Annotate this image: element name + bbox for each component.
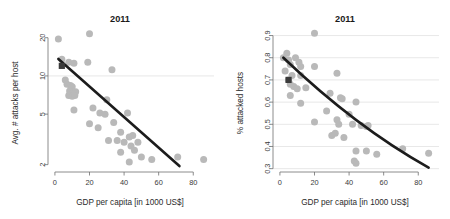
panel-attacked-hosts: 2011 % attacked hosts GDP per capita [in… bbox=[225, 0, 450, 219]
data-point bbox=[425, 150, 432, 157]
data-point bbox=[138, 153, 145, 160]
data-point bbox=[124, 110, 131, 117]
left-panel-title: 2011 bbox=[110, 14, 130, 24]
x-tick-label: 80 bbox=[414, 178, 422, 187]
x-tick-label: 20 bbox=[310, 178, 318, 187]
data-point bbox=[105, 137, 112, 144]
left-y-axis: 251020 bbox=[38, 34, 48, 167]
data-point bbox=[323, 107, 330, 114]
data-point bbox=[70, 60, 77, 67]
data-point bbox=[86, 30, 93, 37]
x-tick-label: 0 bbox=[278, 178, 282, 187]
right-data-points bbox=[280, 30, 432, 167]
data-point bbox=[71, 92, 78, 99]
data-point bbox=[311, 119, 318, 126]
right-x-axis: 020406080 bbox=[278, 172, 423, 187]
data-point bbox=[297, 63, 304, 70]
data-point bbox=[108, 66, 115, 73]
y-tick-label: 20 bbox=[38, 34, 47, 42]
data-point bbox=[55, 36, 62, 43]
data-point bbox=[89, 104, 96, 111]
data-point bbox=[126, 158, 133, 165]
data-point bbox=[333, 70, 340, 77]
y-tick-label: 0.6 bbox=[263, 97, 272, 107]
left-x-axis-title: GDP per capita [in 1000 US$] bbox=[76, 198, 184, 207]
data-point bbox=[349, 121, 356, 128]
y-tick-label: 2 bbox=[38, 163, 47, 167]
data-point bbox=[84, 59, 91, 66]
left-x-axis: 020406080 bbox=[53, 172, 198, 187]
data-point bbox=[363, 147, 370, 154]
data-point bbox=[311, 63, 318, 70]
y-tick-label: 0.4 bbox=[263, 141, 272, 151]
panel-attacks-per-host: 2011 Avg. # attacks per host GDP per cap… bbox=[0, 0, 225, 219]
x-tick-label: 60 bbox=[155, 178, 163, 187]
data-point bbox=[200, 156, 207, 163]
data-point bbox=[117, 129, 124, 136]
data-point bbox=[121, 139, 128, 146]
right-x-axis-title: GDP per capita [in 1000 US$] bbox=[301, 198, 409, 207]
data-point bbox=[86, 120, 93, 127]
x-tick-label: 20 bbox=[85, 178, 93, 187]
right-panel-title: 2011 bbox=[335, 14, 355, 24]
left-y-axis-title: Avg. # attacks per host bbox=[11, 61, 20, 145]
right-plot-svg: 2011 % attacked hosts GDP per capita [in… bbox=[225, 0, 450, 219]
right-y-axis: 0.30.40.50.60.70.80.9 bbox=[263, 30, 273, 173]
data-point bbox=[340, 134, 347, 141]
y-tick-label: 0.8 bbox=[263, 53, 272, 63]
data-point bbox=[294, 85, 301, 92]
data-point bbox=[297, 100, 304, 107]
data-point bbox=[302, 84, 309, 91]
y-tick-label: 10 bbox=[38, 72, 47, 80]
data-point bbox=[311, 30, 318, 37]
data-point bbox=[287, 92, 294, 99]
data-point bbox=[110, 119, 117, 126]
y-tick-label: 0.3 bbox=[263, 164, 272, 174]
data-point bbox=[102, 111, 109, 118]
data-point bbox=[129, 132, 136, 139]
data-point bbox=[332, 130, 339, 137]
data-point bbox=[353, 99, 360, 106]
data-point bbox=[282, 68, 289, 75]
data-point bbox=[70, 106, 77, 113]
x-tick-label: 40 bbox=[345, 178, 353, 187]
x-tick-label: 60 bbox=[380, 178, 388, 187]
left-data-points bbox=[55, 30, 207, 165]
data-point bbox=[134, 139, 141, 146]
right-highlight-marker bbox=[285, 77, 291, 83]
data-point bbox=[174, 153, 181, 160]
data-point bbox=[283, 50, 290, 57]
data-point bbox=[117, 149, 124, 156]
y-tick-label: 0.5 bbox=[263, 119, 272, 129]
y-tick-label: 0.7 bbox=[263, 75, 272, 85]
x-tick-label: 40 bbox=[120, 178, 128, 187]
data-point bbox=[353, 160, 360, 167]
data-point bbox=[114, 137, 121, 144]
data-point bbox=[373, 151, 380, 158]
data-point bbox=[335, 121, 342, 128]
data-point bbox=[148, 156, 155, 163]
data-point bbox=[353, 147, 360, 154]
y-tick-label: 5 bbox=[38, 112, 47, 116]
x-tick-label: 80 bbox=[189, 178, 197, 187]
figure-container: 2011 Avg. # attacks per host GDP per cap… bbox=[0, 0, 450, 219]
left-highlight-marker bbox=[59, 63, 65, 69]
left-plot-svg: 2011 Avg. # attacks per host GDP per cap… bbox=[0, 0, 225, 219]
x-tick-label: 0 bbox=[53, 178, 57, 187]
y-tick-label: 0.9 bbox=[263, 30, 272, 40]
right-y-axis-title: % attacked hosts bbox=[236, 72, 245, 134]
data-point bbox=[95, 124, 102, 131]
data-point bbox=[131, 147, 138, 154]
data-point bbox=[339, 95, 346, 102]
